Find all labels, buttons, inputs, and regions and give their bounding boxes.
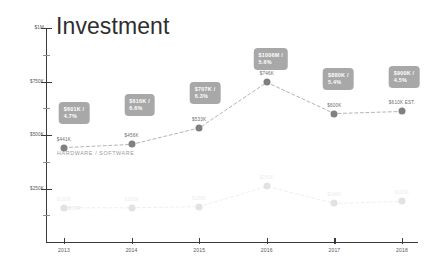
point-label-labor-2017: $180K	[327, 192, 341, 197]
callout-amount: $707K /	[195, 86, 216, 93]
callout-2013[interactable]: $601K /4.7%	[59, 102, 90, 124]
callout-amount: $601K /	[64, 106, 85, 113]
hardware-software-line	[64, 82, 402, 147]
series-lines	[0, 0, 424, 267]
data-point-hardware-software-2014[interactable]	[128, 141, 135, 148]
point-label-hardware-software-2018: $610K EST.	[389, 100, 415, 105]
data-point-hardware-software-2015[interactable]	[196, 124, 203, 131]
data-point-labor-2015[interactable]	[196, 203, 203, 210]
labor-line	[64, 186, 402, 207]
point-label-hardware-software-2014: $456K	[124, 133, 138, 138]
callout-2014[interactable]: $616K /6.6%	[124, 94, 155, 116]
callout-2015[interactable]: $707K /6.3%	[190, 82, 221, 104]
point-label-hardware-software-2017: $600K	[327, 103, 341, 108]
callout-percent: 5.6%	[259, 59, 283, 66]
callout-percent: 4.7%	[64, 113, 85, 120]
data-point-labor-2014[interactable]	[128, 204, 135, 211]
callout-amount: $900K /	[394, 70, 415, 77]
data-point-labor-2018[interactable]	[399, 198, 406, 205]
point-label-hardware-software-2016: $746K	[260, 71, 274, 76]
point-label-labor-2014: $160K	[124, 197, 138, 202]
data-point-hardware-software-2017[interactable]	[331, 110, 338, 117]
callout-amount: $880K /	[328, 72, 349, 79]
investment-chart: Investment $250K$500K$750K$1M 2013201420…	[0, 0, 424, 267]
data-point-hardware-software-2016[interactable]	[263, 79, 270, 86]
point-label-labor-2013: $160K	[57, 197, 71, 202]
point-label-labor-2016: $260K	[260, 175, 274, 180]
series-label-labor: LABOR	[60, 205, 81, 211]
data-point-labor-2017[interactable]	[331, 200, 338, 207]
data-point-labor-2016[interactable]	[263, 183, 270, 190]
callout-percent: 6.3%	[195, 93, 216, 100]
callout-2016[interactable]: $1006M /5.6%	[254, 48, 288, 70]
callout-percent: 5.4%	[328, 79, 349, 86]
point-label-labor-2015: $165K	[192, 196, 206, 201]
callout-2017[interactable]: $880K /5.4%	[323, 68, 354, 90]
series-label-hardware-software: HARDWARE / SOFTWARE	[57, 150, 135, 156]
point-label-hardware-software-2013: $441K	[57, 137, 71, 142]
callout-2018[interactable]: $900K /4.5%	[389, 66, 420, 88]
point-label-hardware-software-2015: $533K	[192, 117, 206, 122]
callout-amount: $1006M /	[259, 52, 283, 59]
callout-amount: $616K /	[129, 98, 150, 105]
point-label-labor-2018: $190K	[395, 190, 409, 195]
callout-percent: 6.6%	[129, 105, 150, 112]
callout-percent: 4.5%	[394, 77, 415, 84]
data-point-hardware-software-2018[interactable]	[399, 108, 406, 115]
